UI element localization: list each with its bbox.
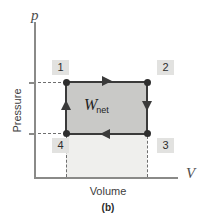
arrow-right-icon — [102, 76, 112, 86]
lower-shaded-region — [66, 134, 147, 178]
figure-caption: (b) — [68, 203, 148, 213]
state-point-3 — [144, 130, 151, 137]
arrow-down-icon — [142, 101, 152, 111]
state-tag-1: 1 — [52, 60, 69, 75]
pv-diagram-figure: 1 2 3 4 Wnet p V Pressure Volume (b) — [0, 0, 206, 221]
volume-axis-line — [34, 177, 178, 179]
state-tag-4: 4 — [52, 138, 69, 153]
state-tag-2: 2 — [157, 60, 174, 75]
arrow-left-icon — [100, 129, 110, 139]
pressure-axis-line — [34, 22, 36, 179]
guide-dashed-upper-horizontal — [38, 82, 66, 83]
pressure-axis-symbol: p — [31, 8, 39, 23]
guide-dashed-right-vertical — [147, 136, 148, 177]
state-point-2 — [144, 79, 151, 86]
net-work-label: Wnet — [84, 97, 110, 113]
volume-axis-symbol: V — [186, 166, 195, 181]
state-tag-3: 3 — [157, 138, 174, 153]
pressure-axis-tick-lower — [29, 133, 36, 135]
guide-dashed-lower-horizontal — [38, 133, 66, 134]
state-point-4 — [63, 130, 70, 137]
net-work-subscript: net — [96, 105, 109, 115]
arrow-up-icon — [61, 100, 71, 110]
pressure-axis-tick-upper — [29, 82, 36, 84]
pressure-axis-label: Pressure — [12, 81, 23, 141]
volume-axis-label: Volume — [68, 186, 148, 197]
state-point-1 — [63, 79, 70, 86]
